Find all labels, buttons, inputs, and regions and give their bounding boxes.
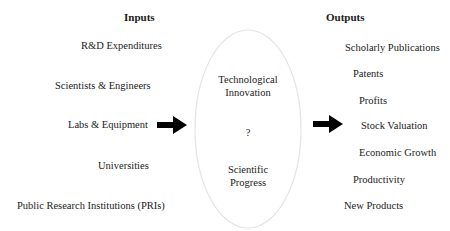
output-item: Economic Growth: [359, 148, 436, 159]
diagram-shapes: [0, 0, 450, 231]
output-item: Scholarly Publications: [345, 43, 440, 54]
input-item: Scientists & Engineers: [55, 81, 151, 92]
input-item: Labs & Equipment: [68, 120, 148, 131]
process-top-line1: Technological: [200, 75, 296, 86]
output-item: Patents: [353, 69, 383, 80]
output-arrow-icon: [313, 115, 343, 133]
output-item: Productivity: [353, 175, 405, 186]
input-item: Universities: [98, 161, 149, 172]
output-item: Stock Valuation: [361, 121, 428, 132]
process-unknown-mark: ?: [200, 128, 296, 139]
input-item: R&D Expenditures: [81, 41, 162, 52]
output-item: Profits: [359, 96, 387, 107]
outputs-header: Outputs: [326, 12, 365, 23]
process-bottom-line1: Scientific: [200, 165, 296, 176]
inputs-header: Inputs: [124, 12, 155, 23]
process-top-line2: Innovation: [200, 88, 296, 99]
output-item: New Products: [344, 201, 403, 212]
input-arrow-icon: [157, 116, 187, 134]
input-item: Public Research Institutions (PRIs): [17, 201, 165, 212]
process-bottom-line2: Progress: [200, 178, 296, 189]
